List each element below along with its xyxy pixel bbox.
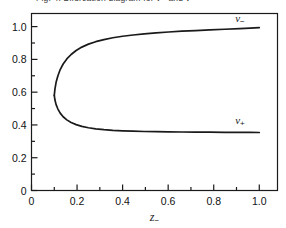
x-axis-tick-label: 0.6 bbox=[161, 195, 176, 207]
x-axis-tick-label: 0 bbox=[29, 195, 35, 207]
y-axis-tick-label: 1.0 bbox=[12, 21, 27, 33]
x-axis-title: z− bbox=[150, 210, 159, 225]
curve-annotation: v+ bbox=[235, 114, 245, 128]
x-axis-tick-label: 0.2 bbox=[70, 195, 85, 207]
curve-lower bbox=[54, 95, 259, 132]
y-axis-tick-label: 0 bbox=[21, 185, 27, 197]
y-axis-tick-label: 0.8 bbox=[12, 53, 27, 65]
plot-frame bbox=[32, 14, 278, 191]
x-axis-tick-label: 1.0 bbox=[252, 195, 267, 207]
y-axis-tick-label: 0.4 bbox=[12, 119, 27, 131]
y-axis-tick-label: 0.6 bbox=[12, 86, 27, 98]
figure-container: Fig. 4. Bifurcation diagram for v− and v… bbox=[0, 0, 286, 228]
y-axis-tick-label: 0.2 bbox=[12, 152, 27, 164]
curve-annotation: v− bbox=[235, 12, 245, 26]
x-axis-tick-label: 0.4 bbox=[115, 195, 130, 207]
curve-upper bbox=[54, 28, 259, 96]
x-axis-tick-label: 0.8 bbox=[206, 195, 221, 207]
